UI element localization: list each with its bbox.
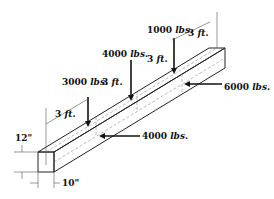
label-load-1000: 1000 lbs. bbox=[147, 25, 193, 35]
label-load-4000-vertical: 4000 lbs. bbox=[102, 49, 148, 59]
label-spacing-1: 3 ft. bbox=[102, 77, 123, 87]
beam-diagram: 3000 lbs. 4000 lbs. 1000 lbs. 6000 lbs. … bbox=[0, 0, 274, 199]
label-load-4000-horizontal: 4000 lbs. bbox=[142, 131, 188, 141]
dimension-lines bbox=[14, 12, 217, 188]
label-spacing-3: 3 ft. bbox=[188, 28, 209, 38]
label-load-6000: 6000 lbs. bbox=[224, 82, 270, 92]
label-spacing-2: 3 ft. bbox=[147, 54, 168, 64]
label-spacing-4: 3 ft. bbox=[55, 109, 76, 119]
label-section-width: 10" bbox=[62, 178, 79, 188]
label-section-height: 12" bbox=[15, 133, 32, 143]
